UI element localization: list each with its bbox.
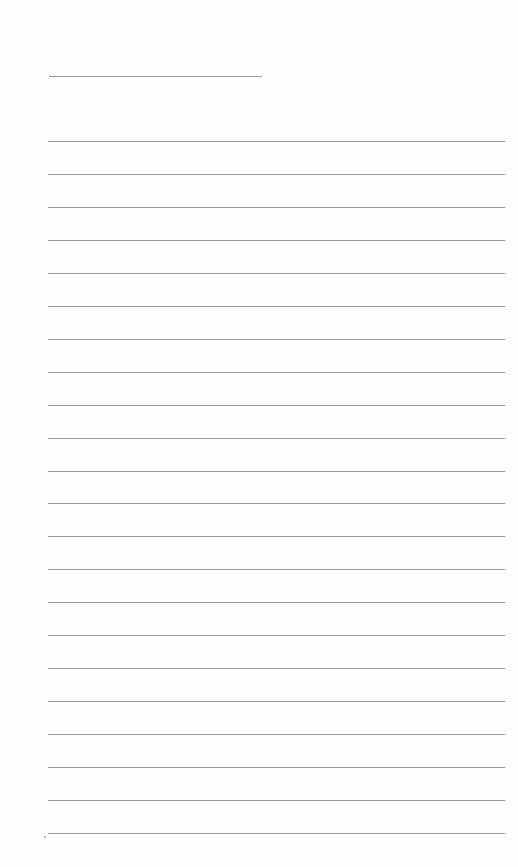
- header-rule: [49, 76, 262, 77]
- writing-line: [48, 767, 505, 768]
- writing-line: [48, 668, 505, 669]
- writing-line: [48, 405, 505, 406]
- writing-line: [48, 602, 505, 603]
- writing-line: [48, 372, 505, 373]
- writing-line: [48, 207, 505, 208]
- writing-line: [48, 471, 505, 472]
- writing-line: [48, 536, 505, 537]
- writing-line: [48, 174, 505, 175]
- writing-line: [48, 569, 505, 570]
- writing-line: [48, 141, 505, 142]
- writing-line: [48, 240, 505, 241]
- margin-mark: [44, 836, 46, 838]
- writing-line: [48, 306, 505, 307]
- writing-line: [48, 503, 505, 504]
- writing-line: [48, 339, 505, 340]
- writing-line: [48, 635, 505, 636]
- writing-line: [48, 734, 505, 735]
- writing-line: [48, 800, 505, 801]
- lined-paper-page: [0, 0, 518, 867]
- writing-line: [48, 833, 505, 834]
- writing-line: [48, 438, 505, 439]
- writing-line: [48, 701, 505, 702]
- writing-line: [48, 273, 505, 274]
